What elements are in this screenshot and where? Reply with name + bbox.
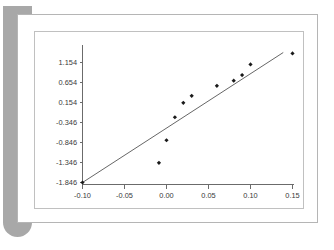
data-point[interactable]	[232, 79, 236, 83]
y-tick-label: 1.154	[59, 58, 78, 67]
data-point[interactable]	[173, 115, 177, 119]
data-point[interactable]	[248, 62, 252, 66]
x-tick-labels: -0.10 -0.05 0.00 0.05 0.10 0.15	[74, 191, 300, 200]
x-axis-ticks	[83, 185, 293, 189]
x-tick-label: 0.15	[285, 191, 299, 200]
x-tick-label: -0.10	[74, 191, 91, 200]
y-tick-label: -0.346	[56, 118, 77, 127]
screenshot-root: 1.154 0.654 0.154 -0.346 -0.846 -1.346 -…	[0, 0, 334, 250]
data-point[interactable]	[164, 138, 168, 142]
data-point-group[interactable]	[80, 51, 294, 184]
y-tick-label: 0.154	[59, 98, 78, 107]
chart-card: 1.154 0.654 0.154 -0.346 -0.846 -1.346 -…	[17, 14, 318, 223]
scatter-plot[interactable]: 1.154 0.654 0.154 -0.346 -0.846 -1.346 -…	[35, 32, 303, 208]
chart-frame[interactable]: 1.154 0.654 0.154 -0.346 -0.846 -1.346 -…	[34, 31, 304, 209]
y-tick-label: -0.846	[56, 138, 77, 147]
data-point[interactable]	[215, 84, 219, 88]
data-point[interactable]	[290, 51, 294, 55]
x-tick-label: 0.00	[159, 191, 173, 200]
y-tick-label: -1.846	[56, 178, 77, 187]
y-tick-label: 0.654	[59, 78, 78, 87]
y-tick-label: -1.346	[56, 158, 77, 167]
data-point[interactable]	[240, 73, 244, 77]
data-point[interactable]	[157, 161, 161, 165]
x-tick-label: 0.05	[201, 191, 215, 200]
data-point[interactable]	[190, 94, 194, 98]
x-tick-label: -0.05	[116, 191, 133, 200]
data-point[interactable]	[181, 101, 185, 105]
trend-line	[83, 53, 284, 183]
x-tick-label: 0.10	[243, 191, 257, 200]
y-tick-labels: 1.154 0.654 0.154 -0.346 -0.846 -1.346 -…	[56, 58, 77, 187]
